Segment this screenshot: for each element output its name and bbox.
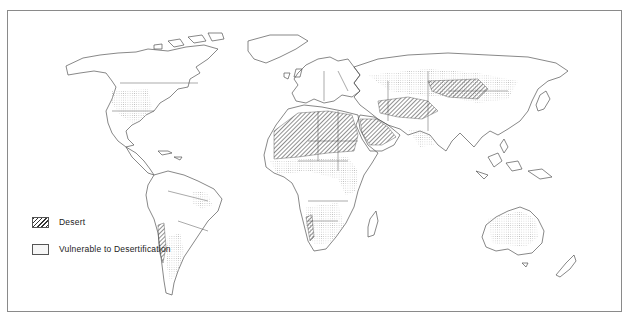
legend-item-vulnerable: Vulnerable to Desertification — [32, 242, 171, 256]
map-legend: Desert Vulnerable to Desertification — [32, 215, 171, 269]
europe — [292, 57, 360, 103]
madagascar — [368, 211, 378, 237]
japan — [536, 91, 550, 111]
dotted-swatch-icon — [32, 244, 49, 255]
legend-label: Desert — [59, 217, 85, 227]
hatched-swatch-icon — [32, 217, 49, 228]
legend-label: Vulnerable to Desertification — [59, 244, 171, 254]
central-america — [126, 147, 154, 175]
new-zealand — [556, 255, 576, 277]
legend-item-desert: Desert — [32, 215, 171, 229]
greenland — [248, 35, 308, 63]
map-frame: Desert Vulnerable to Desertification — [7, 10, 622, 312]
